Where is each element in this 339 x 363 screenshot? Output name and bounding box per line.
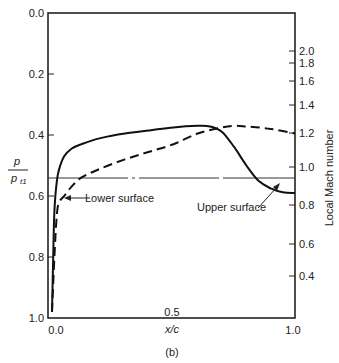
plot-frame: [48, 13, 295, 318]
upper-surface-label: Upper surface: [197, 201, 266, 213]
figure-caption: (b): [165, 346, 178, 358]
chart: 0.0 0.2 0.4 0.6 0.8 1.0 p p t1 2.0 1.8 1…: [0, 0, 339, 363]
mach-tick-label: 2.0: [299, 45, 314, 57]
mach-tick-label: 1.8: [299, 57, 314, 69]
left-tick-labels: 0.0 0.2 0.4 0.6 0.8 1.0: [29, 7, 44, 324]
x-tick-label: 0.0: [48, 324, 63, 336]
y-label-den-subscript: t1: [20, 177, 27, 186]
y-tick-label: 0.8: [29, 251, 44, 263]
right-tick-labels: 2.0 1.8 1.6 1.4 1.2 1.0 0.8 0.6 0.4: [299, 45, 314, 282]
x-tick-label: 1.0: [285, 324, 300, 336]
y-label-denominator: p: [10, 172, 17, 184]
y-tick-label: 0.2: [29, 68, 44, 80]
mach-tick-label: 0.8: [299, 199, 314, 211]
right-axis: [289, 51, 295, 276]
mach-tick-label: 1.6: [299, 75, 314, 87]
lower-surface-annotation: Lower surface: [64, 192, 154, 204]
mach-tick-label: 0.4: [299, 270, 314, 282]
y-label-den-main: p: [10, 172, 17, 184]
x-axis-label: x/c: [164, 323, 180, 335]
y-axis-label-right: Local Mach number: [323, 129, 335, 226]
lower-surface-label: Lower surface: [85, 192, 154, 204]
y-label-numerator: p: [13, 155, 20, 167]
mach-tick-label: 0.6: [299, 238, 314, 250]
y-tick-label: 0.0: [29, 7, 44, 19]
x-tick-label-mid: 0.5: [164, 306, 179, 318]
upper-surface-curve: [52, 126, 295, 312]
mach-tick-label: 1.4: [299, 99, 314, 111]
mach-tick-label: 1.0: [299, 161, 314, 173]
mach-tick-label: 1.2: [299, 127, 314, 139]
y-tick-label: 0.6: [29, 190, 44, 202]
y-tick-label: 1.0: [29, 312, 44, 324]
y-tick-label: 0.4: [29, 129, 44, 141]
y-axis-label-left: p p t1: [8, 155, 28, 186]
lower-surface-curve: [52, 126, 295, 312]
